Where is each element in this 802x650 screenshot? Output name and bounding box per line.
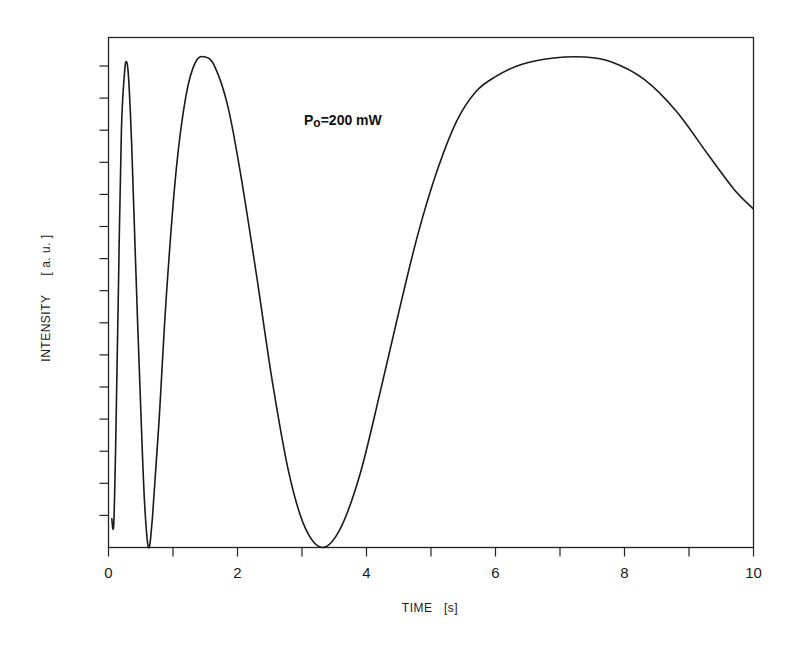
x-axis-label: TIME [s] <box>402 601 458 615</box>
x-tick-label: 10 <box>745 564 762 581</box>
y-axis-label: INTENSITY [ a. u. ] <box>39 234 53 361</box>
y-axis-ticks <box>100 66 109 515</box>
plot-frame <box>109 38 754 548</box>
x-tick-label: 4 <box>362 564 370 581</box>
x-tick-label: 6 <box>491 564 499 581</box>
x-axis-ticks <box>109 548 754 557</box>
x-tick-label: 8 <box>620 564 628 581</box>
x-axis-tick-labels: 0246810 <box>104 564 762 581</box>
intensity-curve <box>112 56 754 547</box>
x-tick-label: 0 <box>104 564 112 581</box>
x-tick-label: 2 <box>233 564 241 581</box>
power-annotation: Po=200 mW <box>304 112 383 130</box>
intensity-time-chart: 0246810 Po=200 mW TIME [s] INTENSITY [ a… <box>0 0 802 650</box>
